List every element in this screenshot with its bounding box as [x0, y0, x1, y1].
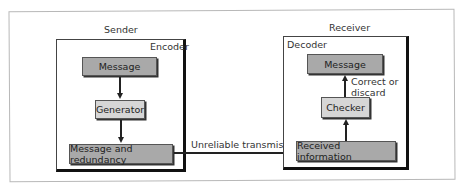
encoder-label: Encoder: [150, 41, 189, 52]
receiver-title: Receiver: [329, 22, 370, 33]
arrow-line-generator-to-output: [120, 120, 122, 138]
correct-label-line1: Correct or: [351, 76, 398, 87]
decoder-label: Decoder: [287, 39, 327, 50]
sender-message-box: Message: [82, 57, 157, 76]
transmission-line: [174, 152, 290, 154]
generator-box: Generator: [95, 100, 145, 119]
message-redundancy-box: Message and redundancy: [69, 144, 173, 164]
arrow-line-checker-to-message: [344, 80, 346, 97]
arrow-line-message-to-generator: [119, 77, 121, 94]
arrow-down-icon: [117, 93, 123, 99]
checker-box: Checker: [321, 97, 370, 118]
sender-title: Sender: [104, 24, 138, 35]
arrow-line-received-to-checker: [345, 124, 347, 141]
received-information-box: Received information: [296, 141, 396, 161]
receiver-message-box: Message: [307, 54, 383, 74]
